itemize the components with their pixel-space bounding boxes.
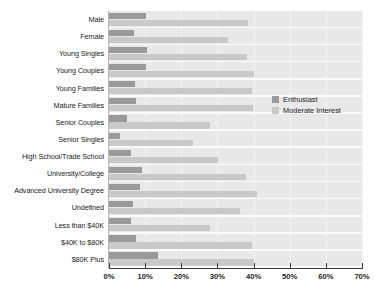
bar-moderate-interest [109, 225, 210, 231]
y-axis-label: Young Families [0, 80, 104, 97]
bar-group [109, 217, 362, 234]
bar-chart: MaleFemaleYoung SinglesYoung CouplesYoun… [0, 0, 374, 299]
bar-enthusiast [109, 201, 133, 207]
y-axis-category-labels: MaleFemaleYoung SinglesYoung CouplesYoun… [0, 11, 104, 268]
bar-enthusiast [109, 252, 158, 258]
x-axis-tick [217, 263, 218, 269]
bar-moderate-interest [109, 208, 240, 214]
y-axis-line [108, 11, 109, 268]
bar-enthusiast [109, 184, 140, 190]
chart-legend: EnthusiastModerate Interest [272, 94, 341, 116]
bar-group [109, 251, 362, 268]
bar-group [109, 62, 362, 79]
x-axis-tick-label: 40% [246, 272, 261, 281]
bar-moderate-interest [109, 88, 252, 94]
x-axis-tick [290, 263, 291, 269]
x-axis-tick-label: 20% [174, 272, 189, 281]
bar-group [109, 131, 362, 148]
bar-enthusiast [109, 167, 142, 173]
bar-enthusiast [109, 98, 136, 104]
legend-item: Enthusiast [272, 94, 341, 105]
x-axis-tick-label: 30% [210, 272, 225, 281]
y-axis-label: Young Couples [0, 62, 104, 79]
bar-moderate-interest [109, 122, 210, 128]
y-axis-label: High School/Trade School [0, 148, 104, 165]
y-axis-label: Less than $40K [0, 217, 104, 234]
y-axis-label: University/College [0, 165, 104, 182]
bar-moderate-interest [109, 242, 252, 248]
legend-item: Moderate Interest [272, 105, 341, 116]
x-axis-tick [145, 263, 146, 269]
bar-group [109, 45, 362, 62]
x-axis-tick-label: 10% [138, 272, 153, 281]
bar-enthusiast [109, 115, 127, 121]
plot-area [109, 11, 362, 268]
x-axis-tick [254, 263, 255, 269]
bar-moderate-interest [109, 71, 254, 77]
bar-moderate-interest [109, 157, 218, 163]
bar-group [109, 234, 362, 251]
x-axis-tick [109, 263, 110, 269]
bar-moderate-interest [109, 105, 253, 111]
y-axis-label: Advanced University Degree [0, 182, 104, 199]
bar-enthusiast [109, 218, 131, 224]
y-axis-label: $40K to $80K [0, 234, 104, 251]
bar-group [109, 165, 362, 182]
legend-label: Enthusiast [283, 95, 318, 104]
y-axis-label: Senior Couples [0, 114, 104, 131]
y-axis-label: Undefined [0, 199, 104, 216]
y-axis-label: Young Singles [0, 45, 104, 62]
x-axis-tick-label: 50% [282, 272, 297, 281]
bar-enthusiast [109, 133, 120, 139]
bar-moderate-interest [109, 174, 246, 180]
bar-moderate-interest [109, 191, 257, 197]
x-axis-tick-label: 0% [104, 272, 115, 281]
y-axis-label: $80K Plus [0, 251, 104, 268]
x-gridline [362, 11, 363, 268]
bar-enthusiast [109, 47, 147, 53]
x-axis-tick [181, 263, 182, 269]
x-axis-tick-label: 70% [354, 272, 369, 281]
bar-moderate-interest [109, 20, 248, 26]
bar-moderate-interest [109, 37, 228, 43]
legend-swatch [272, 96, 279, 103]
bar-group [109, 199, 362, 216]
bar-moderate-interest [109, 140, 193, 146]
x-axis-tick-label: 60% [318, 272, 333, 281]
bar-enthusiast [109, 150, 131, 156]
bar-group [109, 148, 362, 165]
x-axis-tick [326, 263, 327, 269]
bar-enthusiast [109, 235, 136, 241]
bar-enthusiast [109, 30, 134, 36]
y-axis-label: Mature Families [0, 97, 104, 114]
y-axis-label: Senior Singles [0, 131, 104, 148]
bar-group [109, 28, 362, 45]
x-axis-tick [362, 263, 363, 269]
bar-enthusiast [109, 81, 135, 87]
bar-moderate-interest [109, 54, 247, 60]
y-axis-label: Female [0, 28, 104, 45]
bar-group [109, 182, 362, 199]
legend-label: Moderate Interest [283, 106, 341, 115]
bar-group [109, 11, 362, 28]
bar-group [109, 114, 362, 131]
y-axis-label: Male [0, 11, 104, 28]
bar-enthusiast [109, 64, 146, 70]
legend-swatch [272, 107, 279, 114]
bar-enthusiast [109, 13, 146, 19]
